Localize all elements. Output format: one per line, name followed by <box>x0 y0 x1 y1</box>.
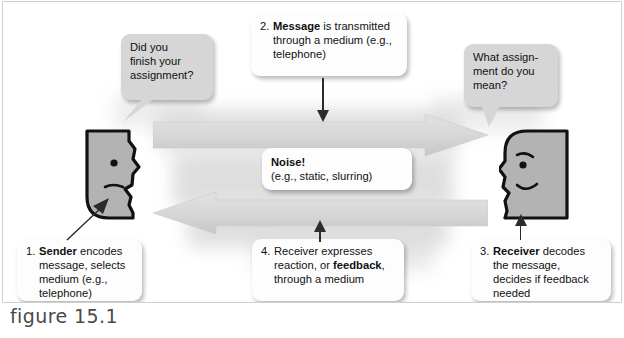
receiver-bubble-tail <box>481 105 515 127</box>
step-keyword: Message <box>273 20 320 32</box>
step-line: the message, <box>493 258 602 272</box>
message-connector-arrowhead <box>317 110 329 122</box>
step-line: through a medium <box>274 272 395 286</box>
step-text: Message is transmitted <box>273 19 398 33</box>
sender-bubble-tail <box>121 98 155 122</box>
step-line: telephone) <box>39 286 133 300</box>
step-line: reaction, or <box>274 259 333 271</box>
receiver-connector-line <box>520 224 521 240</box>
step-number: 3. <box>480 244 493 258</box>
receiver-head <box>499 127 571 222</box>
step-keyword: Receiver <box>493 245 540 257</box>
step-text: Receiver decodes <box>493 244 602 258</box>
step-line: encodes <box>77 245 122 257</box>
step-line: Receiver expresses <box>274 244 395 258</box>
step-line: decodes <box>540 245 585 257</box>
receiver-speech-bubble: What assign- ment do you mean? <box>464 44 558 107</box>
step-text: Sender encodes <box>39 244 133 258</box>
bubble-line: mean? <box>473 78 549 92</box>
step-number: 1. <box>26 244 39 258</box>
step-keyword: feedback <box>333 259 382 271</box>
receiver-connector-arrowhead <box>515 214 527 226</box>
bubble-line: Did you <box>130 40 204 54</box>
step-line: medium (e.g., <box>39 272 133 286</box>
noise-detail: (e.g., static, slurring) <box>271 169 403 183</box>
step-line: through a medium (e.g., <box>273 33 398 47</box>
step-line: needed <box>493 286 602 300</box>
step-text: reaction, or feedback, <box>274 258 395 272</box>
step-line: decides if feedback <box>493 272 602 286</box>
bubble-line: What assign- <box>473 50 549 64</box>
step-keyword: Sender <box>39 245 77 257</box>
noise-title: Noise! <box>271 155 403 169</box>
step-4-feedback-box: 4. Receiver expresses reaction, or feedb… <box>252 239 404 301</box>
step-number: 2. <box>260 19 273 33</box>
feedback-connector-arrowhead <box>314 220 326 232</box>
bubble-line: assignment? <box>130 68 204 82</box>
step-1-sender-box: 1. Sender encodes message, selects mediu… <box>17 239 142 301</box>
sender-speech-bubble: Did you finish your assignment? <box>121 34 213 100</box>
step-number: 4. <box>261 244 274 258</box>
step-line: is transmitted <box>320 20 390 32</box>
noise-box: Noise! (e.g., static, slurring) <box>262 148 412 190</box>
bubble-line: ment do you <box>473 64 549 78</box>
step-2-message-box: 2. Message is transmitted through a medi… <box>251 13 407 76</box>
figure-frame: Did you finish your assignment? What ass… <box>2 1 622 303</box>
step-line: , <box>382 259 385 271</box>
figure-caption: figure 15.1 <box>10 305 118 327</box>
step-3-receiver-box: 3. Receiver decodes the message, decides… <box>471 239 611 301</box>
bubble-line: finish your <box>130 54 204 68</box>
step-line: telephone) <box>273 47 398 61</box>
step-line: message, selects <box>39 258 133 272</box>
sender-connector-line <box>63 198 111 242</box>
